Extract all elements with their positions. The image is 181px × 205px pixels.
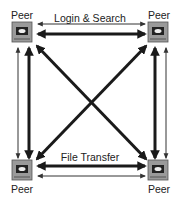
computer-icon-tr	[148, 22, 168, 42]
computer-icon-bl	[12, 160, 32, 180]
edge-label-file-transfer: File Transfer	[61, 152, 119, 163]
network-diagram	[0, 0, 181, 205]
edge-label-login-search: Login & Search	[54, 13, 126, 24]
computer-icon-br	[148, 160, 168, 180]
peer-label-tl: Peer	[11, 10, 33, 21]
peer-label-br: Peer	[148, 184, 170, 195]
computer-icon-tl	[12, 22, 32, 42]
peer-label-bl: Peer	[11, 184, 33, 195]
peer-label-tr: Peer	[148, 10, 170, 21]
